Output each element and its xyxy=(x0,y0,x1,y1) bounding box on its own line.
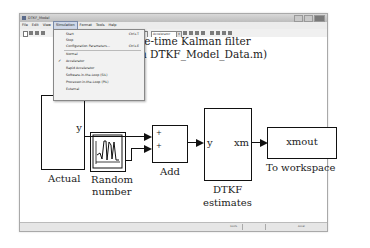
random-label-line2: number xyxy=(92,186,131,197)
menu-item-label: Stop xyxy=(66,38,73,42)
minimize-button[interactable] xyxy=(294,15,303,22)
arrow-head-icon xyxy=(144,145,152,153)
menu-item-label: Configuration Parameters... xyxy=(66,44,110,48)
add-label: Add xyxy=(160,166,180,177)
add-block[interactable]: + + xyxy=(152,125,188,163)
simulink-model-window: DTKF_Model File Edit View Simulation For… xyxy=(19,13,328,232)
menu-item-configuration-parameters[interactable]: Configuration Parameters... Ctrl+E xyxy=(54,43,144,49)
add-input-plus-2: + xyxy=(156,142,162,150)
simulation-menu: Start Ctrl+T Stop Configuration Paramete… xyxy=(53,29,145,101)
actual-block[interactable]: y xyxy=(41,95,85,170)
dtkf-output-port-xm: xm xyxy=(234,137,249,148)
workspace-variable-name: xmout xyxy=(268,136,336,147)
menu-item-shortcut: Ctrl+E xyxy=(129,43,139,49)
status-divider xyxy=(242,224,243,230)
actual-label: Actual xyxy=(48,173,80,184)
menu-item-label: Normal xyxy=(66,52,78,56)
signal-line-segment xyxy=(131,148,145,149)
menu-item-label: Accelerator xyxy=(66,59,84,63)
dtkf-label-line1: DTKF xyxy=(213,184,242,195)
window-title: DTKF_Model xyxy=(28,14,49,22)
menu-item-accelerator[interactable]: ✓ Accelerator xyxy=(54,58,144,64)
status-divider xyxy=(265,224,266,230)
status-zoom: 100% xyxy=(230,225,237,228)
window-controls xyxy=(294,15,325,22)
dtkf-block[interactable]: y xm xyxy=(204,108,252,181)
arrow-head-icon xyxy=(144,133,152,141)
status-solver: Accel xyxy=(298,225,305,228)
status-bar: 100% Accel xyxy=(20,222,327,231)
menu-item-label: Processor-in-the-Loop (PIL) xyxy=(66,80,109,84)
menu-item-external[interactable]: External xyxy=(54,86,144,92)
close-button[interactable] xyxy=(314,15,325,22)
menu-edit[interactable]: Edit xyxy=(30,22,41,29)
signal-line-actual-to-add[interactable] xyxy=(85,136,145,137)
menu-item-label: Rapid Accelerator xyxy=(66,66,94,70)
menu-item-normal[interactable]: Normal xyxy=(54,51,144,57)
menu-item-sil[interactable]: Software-in-the-Loop (SIL) xyxy=(54,72,144,78)
menu-tools[interactable]: Tools xyxy=(94,22,107,29)
dtkf-label-line2: estimates xyxy=(203,197,252,208)
add-input-plus-1: + xyxy=(156,129,162,137)
actual-output-port-y: y xyxy=(76,122,82,133)
signal-line-segment xyxy=(131,148,132,161)
menu-file[interactable]: File xyxy=(20,22,30,29)
menu-item-label: External xyxy=(66,87,79,91)
menu-view[interactable]: View xyxy=(41,22,53,29)
menu-item-label: Start xyxy=(66,32,74,36)
to-workspace-block[interactable]: xmout xyxy=(267,127,337,159)
open-icon[interactable] xyxy=(29,31,33,35)
diagram-title-line1: te-time Kalman filter xyxy=(140,35,251,47)
menu-item-label: Software-in-the-Loop (SIL) xyxy=(66,73,108,77)
print-icon[interactable] xyxy=(41,31,45,35)
check-icon: ✓ xyxy=(58,58,61,64)
random-signal-icon xyxy=(91,133,124,170)
menu-bar: File Edit View Simulation Format Tools H… xyxy=(20,22,327,29)
random-label-line1: Random xyxy=(91,174,133,185)
random-number-block[interactable] xyxy=(90,132,126,172)
to-workspace-label: To workspace xyxy=(266,162,336,173)
menu-help[interactable]: Help xyxy=(107,22,119,29)
menu-item-pil[interactable]: Processor-in-the-Loop (PIL) xyxy=(54,79,144,85)
save-icon[interactable] xyxy=(35,31,39,35)
maximize-button[interactable] xyxy=(304,15,313,22)
arrow-head-icon xyxy=(196,139,204,147)
diagram-title-line2: h DTKF_Model_Data.m) xyxy=(140,48,267,60)
menu-format[interactable]: Format xyxy=(78,22,94,29)
dtkf-input-port-y: y xyxy=(207,137,213,148)
app-icon xyxy=(22,16,26,20)
menu-item-rapid-accelerator[interactable]: Rapid Accelerator xyxy=(54,65,144,71)
